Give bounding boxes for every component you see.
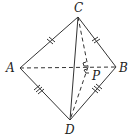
edge-cb bbox=[78, 17, 116, 67]
right-angle-mark bbox=[83, 62, 87, 66]
tetrahedron-figure: C A B D P bbox=[0, 0, 134, 140]
label-c: C bbox=[74, 1, 83, 15]
edge-ab-dashed bbox=[20, 67, 116, 68]
tick-mark-ad bbox=[34, 85, 44, 94]
label-p: P bbox=[91, 69, 101, 83]
label-a: A bbox=[5, 61, 15, 75]
label-d: D bbox=[64, 123, 75, 137]
edge-ca bbox=[20, 17, 78, 68]
edge-cd bbox=[70, 17, 78, 120]
label-b: B bbox=[118, 61, 128, 75]
edge-ad bbox=[20, 68, 70, 120]
edge-pd-dashed bbox=[70, 67, 88, 120]
right-angle-mark-lower bbox=[84, 69, 89, 73]
edge-cp-dashed bbox=[78, 17, 88, 67]
